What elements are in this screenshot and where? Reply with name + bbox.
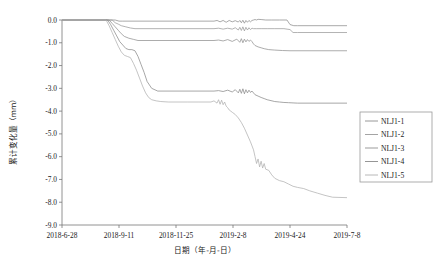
series-line-nlj1-3 (62, 20, 347, 51)
chart-legend: NLJ1-1NLJ1-2NLJ1-3NLJ1-4NLJ1-5 (360, 112, 432, 182)
legend-label-nlj1-1: NLJ1-1 (381, 117, 404, 126)
y-tick-label: -2.0 (45, 61, 57, 70)
series-line-nlj1-5 (62, 20, 347, 198)
y-axis-title: 累计变化量（mm） (8, 95, 18, 166)
legend-label-nlj1-4: NLJ1-4 (381, 157, 404, 166)
y-tick-label: -1.0 (45, 38, 57, 47)
x-axis-title: 日期（年-月-日） (174, 245, 235, 255)
data-series-group (62, 19, 347, 197)
y-tick-label: -8.0 (45, 198, 57, 207)
chart-figure: 0.0-1.0-2.0-3.0-4.0-5.0-6.0-7.0-8.0-9.0 … (0, 0, 436, 267)
y-tick-label: -7.0 (45, 175, 57, 184)
x-tick-label: 2019-7-8 (333, 231, 360, 240)
x-tick-label: 2018-6-28 (47, 231, 78, 240)
x-axis-tick-labels: 2018-6-282018-9-112018-11-252019-2-82019… (47, 231, 361, 240)
y-tick-label: -6.0 (45, 152, 57, 161)
y-tick-label: 0.0 (48, 16, 58, 25)
legend-label-nlj1-5: NLJ1-5 (381, 171, 404, 180)
series-line-nlj1-2 (62, 20, 347, 33)
y-tick-label: -3.0 (45, 84, 57, 93)
x-tick-label: 2019-2-8 (219, 231, 246, 240)
x-tick-label: 2018-11-25 (159, 231, 194, 240)
y-tick-label: -5.0 (45, 129, 57, 138)
x-tick-label: 2019-4-24 (275, 231, 306, 240)
y-tick-label: -9.0 (45, 221, 57, 230)
chart-svg: 0.0-1.0-2.0-3.0-4.0-5.0-6.0-7.0-8.0-9.0 … (0, 0, 436, 267)
legend-label-nlj1-2: NLJ1-2 (381, 130, 404, 139)
x-tick-label: 2018-9-11 (104, 231, 135, 240)
axis-tickmarks (59, 20, 347, 228)
y-axis-tick-labels: 0.0-1.0-2.0-3.0-4.0-5.0-6.0-7.0-8.0-9.0 (45, 16, 57, 230)
legend-label-nlj1-3: NLJ1-3 (381, 144, 404, 153)
y-tick-label: -4.0 (45, 107, 57, 116)
